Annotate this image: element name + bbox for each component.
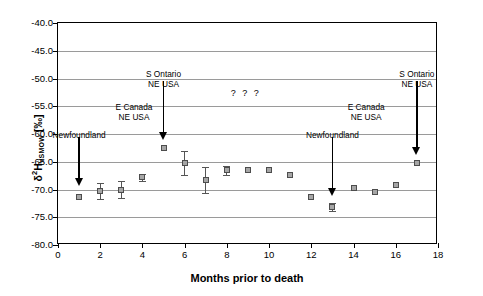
y-axis-tick-label: -60.0 xyxy=(31,129,53,139)
scatter-chart-figure: δ2HVSMOW [‰] -40.0-45.0-50.0-55.0-60.0-6… xyxy=(0,0,483,296)
gridline-y xyxy=(58,162,436,163)
data-point-marker xyxy=(414,160,420,166)
data-point-marker xyxy=(203,177,209,183)
x-axis-tick xyxy=(396,243,397,248)
error-bar-cap xyxy=(202,167,209,168)
data-point-marker xyxy=(329,204,335,210)
data-point-marker xyxy=(372,189,378,195)
y-axis-tick-label: -65.0 xyxy=(31,157,53,167)
x-axis-tick xyxy=(142,243,143,248)
data-point-marker xyxy=(245,167,251,173)
y-axis-title-superscript: 2 xyxy=(30,171,39,175)
annotation-e-canada-right: E CanadaNE USA xyxy=(348,102,385,122)
data-point-marker xyxy=(161,145,167,151)
y-axis-title: δ2HVSMOW [‰] xyxy=(30,115,44,182)
data-point-marker xyxy=(393,182,399,188)
annotation-arrow-shaft xyxy=(332,137,333,189)
annotation-arrow-head xyxy=(328,188,336,196)
gridline-y xyxy=(58,217,436,218)
y-axis-tick xyxy=(53,106,58,107)
error-bar-cap xyxy=(97,183,104,184)
gridline-y xyxy=(58,51,436,52)
y-axis-tick-label: -75.0 xyxy=(31,213,53,223)
y-axis-tick-label: -80.0 xyxy=(31,240,53,250)
gridline-y xyxy=(58,79,436,80)
x-axis-tick-label: 2 xyxy=(98,250,103,260)
error-bar-cap xyxy=(329,211,336,212)
data-point-marker xyxy=(266,167,272,173)
error-bar-cap xyxy=(181,175,188,176)
x-axis-tick xyxy=(185,243,186,248)
data-point-marker xyxy=(224,167,230,173)
annotation-arrow-head xyxy=(159,132,167,140)
data-point-marker xyxy=(97,188,103,194)
error-bar-cap xyxy=(181,151,188,152)
y-axis-tick-label: -50.0 xyxy=(31,74,53,84)
x-axis-tick-label: 4 xyxy=(140,250,145,260)
annotation-arrow-head xyxy=(75,178,83,186)
data-point-marker xyxy=(351,185,357,191)
y-axis-tick xyxy=(53,217,58,218)
y-axis-title-delta: δ xyxy=(32,175,44,181)
data-point-marker xyxy=(76,194,82,200)
error-bar-cap xyxy=(223,175,230,176)
y-axis-tick xyxy=(53,162,58,163)
x-axis-tick xyxy=(438,243,439,248)
x-axis-tick-label: 6 xyxy=(182,250,187,260)
plot-area: -40.0-45.0-50.0-55.0-60.0-65.0-70.0-75.0… xyxy=(57,22,437,244)
x-axis-tick xyxy=(269,243,270,248)
y-axis-tick xyxy=(53,23,58,24)
y-axis-tick-label: -45.0 xyxy=(31,46,53,56)
x-axis-tick-label: 16 xyxy=(390,250,401,260)
annotation-arrow-shaft xyxy=(416,81,417,147)
annotation-e-canada-left: E CanadaNE USA xyxy=(116,102,153,122)
error-bar-cap xyxy=(202,193,209,194)
x-axis-tick xyxy=(311,243,312,248)
error-bar-cap xyxy=(139,181,146,182)
x-axis-tick xyxy=(354,243,355,248)
data-point-marker xyxy=(118,187,124,193)
y-axis-tick-label: -40.0 xyxy=(31,18,53,28)
x-axis-tick xyxy=(227,243,228,248)
data-point-marker xyxy=(308,194,314,200)
x-axis-tick-label: 18 xyxy=(433,250,444,260)
annotation-question-marks: ? ? ? xyxy=(231,88,261,98)
x-axis-tick-label: 14 xyxy=(348,250,359,260)
x-axis-tick xyxy=(58,243,59,248)
data-point-marker xyxy=(182,160,188,166)
y-axis-tick xyxy=(53,51,58,52)
x-axis-tick-label: 12 xyxy=(306,250,317,260)
error-bar-cap xyxy=(118,181,125,182)
x-axis-tick-label: 8 xyxy=(224,250,229,260)
annotation-arrow-shaft xyxy=(163,81,164,132)
annotation-arrow-head xyxy=(412,147,420,155)
y-axis-tick-label: -55.0 xyxy=(31,102,53,112)
gridline-y xyxy=(58,134,436,135)
y-axis-tick xyxy=(53,190,58,191)
annotation-arrow-shaft xyxy=(78,137,79,179)
data-point-marker xyxy=(287,172,293,178)
y-axis-tick xyxy=(53,79,58,80)
x-axis-title: Months prior to death xyxy=(57,272,437,284)
x-axis-tick xyxy=(100,243,101,248)
y-axis-tick-label: -70.0 xyxy=(31,185,53,195)
error-bar-cap xyxy=(97,199,104,200)
x-axis-tick-label: 10 xyxy=(264,250,275,260)
data-point-marker xyxy=(139,174,145,180)
x-axis-tick-label: 0 xyxy=(55,250,60,260)
gridline-y xyxy=(58,190,436,191)
error-bar-cap xyxy=(118,198,125,199)
